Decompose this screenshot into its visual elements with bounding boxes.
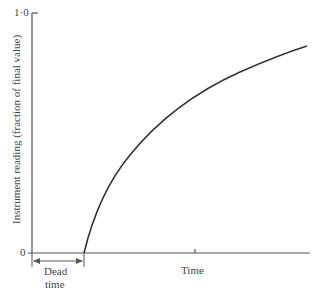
response-curve [84, 46, 307, 253]
y-tick-label-top: 1·0 [14, 6, 29, 18]
x-axis-label: Time [181, 264, 204, 276]
y-tick-label-zero: 0 [20, 246, 26, 258]
arrowhead-left-icon [33, 258, 40, 264]
dead-time-label-1: Dead [44, 265, 67, 277]
y-axis-label: Instrument reading (fraction of final va… [10, 44, 22, 224]
chart-canvas [0, 0, 314, 293]
dead-time-label-2: time [45, 278, 65, 290]
arrowhead-right-icon [76, 258, 83, 264]
